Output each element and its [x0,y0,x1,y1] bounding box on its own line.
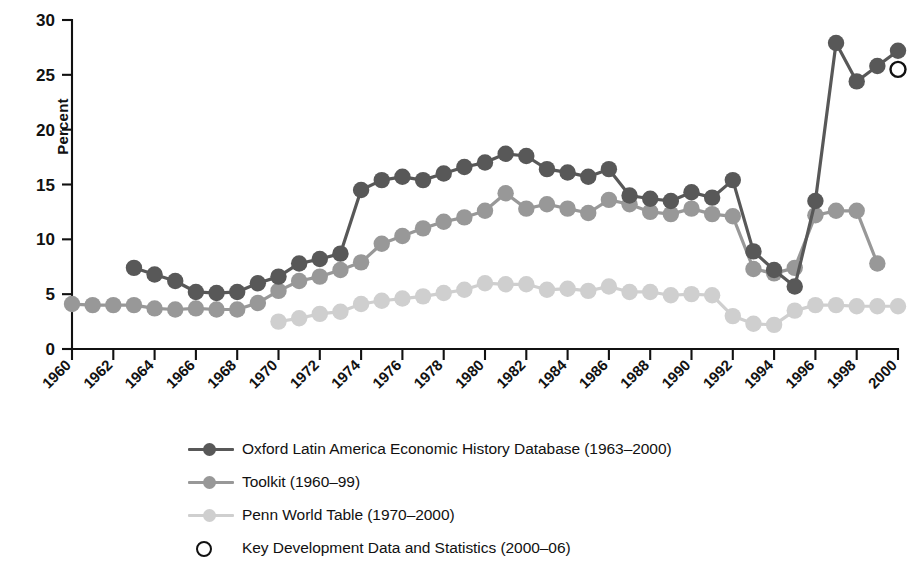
legend-item-oxford: Oxford Latin America Economic History Da… [186,432,886,465]
data-point [828,203,844,219]
data-point [126,297,142,313]
chart-figure: Percent 051015202530 1960196219641966196… [0,0,910,575]
x-tick-label: 1990 [658,356,694,392]
y-tick-labels: 051015202530 [36,11,55,359]
legend-label-oxford: Oxford Latin America Economic History Da… [242,440,672,458]
legend-label-toolkit: Toolkit (1960–99) [242,473,360,491]
data-point [601,192,617,208]
data-point [105,297,121,313]
data-point [518,276,534,292]
y-tick-label: 30 [36,11,55,30]
data-point [84,297,100,313]
data-point [497,276,513,292]
series-1 [64,185,886,318]
data-point [642,284,658,300]
data-point [436,165,452,181]
data-point [477,203,493,219]
data-point [580,283,596,299]
data-point [828,35,844,51]
data-point [580,169,596,185]
data-point [559,200,575,216]
data-point [849,73,865,89]
plot-area: 051015202530 196019621964196619681970197… [0,0,910,430]
data-point [208,285,224,301]
data-point [332,245,348,261]
data-point [725,308,741,324]
data-point [146,266,162,282]
data-point [64,296,80,312]
x-tick-label: 1974 [328,356,364,392]
y-tick-label: 15 [36,176,55,195]
data-point [787,302,803,318]
legend-marker-toolkit [186,472,242,492]
data-point [353,182,369,198]
data-point [167,301,183,317]
data-point [436,285,452,301]
data-point [849,298,865,314]
data-point [415,288,431,304]
data-point [663,193,679,209]
x-tick-label: 1994 [741,356,777,392]
x-tick-label: 1966 [162,356,198,392]
data-point [456,209,472,225]
data-point [745,316,761,332]
x-tick-label: 1992 [699,356,735,392]
legend-label-key-development-data: Key Development Data and Statistics (200… [242,539,571,557]
data-point [683,184,699,200]
data-point [146,300,162,316]
data-point [890,43,906,59]
data-point [188,284,204,300]
data-point [436,214,452,230]
x-tick-label: 1986 [575,356,611,392]
data-point [869,58,885,74]
data-point [725,172,741,188]
legend-item-key-development-data: Key Development Data and Statistics (200… [186,531,886,564]
x-tick-label: 1978 [410,356,446,392]
data-point [869,255,885,271]
data-point [270,283,286,299]
data-point [683,200,699,216]
data-point [456,159,472,175]
data-point [890,298,906,314]
x-axis-ticks [72,349,898,360]
data-point [312,268,328,284]
y-tick-label: 0 [46,340,55,359]
data-point [208,301,224,317]
data-point [394,228,410,244]
series-layer [64,35,906,333]
x-tick-label: 1972 [286,356,322,392]
y-tick-label: 20 [36,121,55,140]
y-tick-label: 10 [36,230,55,249]
series-line [134,43,898,293]
x-tick-labels: 1960196219641966196819701972197419761978… [39,356,901,392]
data-point [497,146,513,162]
data-point [374,236,390,252]
data-point [167,273,183,289]
data-point [704,206,720,222]
x-tick-label: 1964 [121,356,157,392]
legend-marker-oxford [186,439,242,459]
data-point [497,185,513,201]
data-point [374,172,390,188]
data-point [725,208,741,224]
data-point [539,282,555,298]
data-point [518,148,534,164]
x-tick-label: 1998 [823,356,859,392]
data-point [642,191,658,207]
y-tick-label: 5 [46,285,55,304]
data-point [539,196,555,212]
data-point [394,290,410,306]
data-point [621,187,637,203]
x-tick-label: 1962 [80,356,116,392]
data-point [456,282,472,298]
x-tick-label: 1970 [245,356,281,392]
data-point [869,298,885,314]
data-point [704,189,720,205]
data-point [663,287,679,303]
data-point [580,205,596,221]
data-point [270,313,286,329]
data-point [394,169,410,185]
data-point [188,300,204,316]
data-point [849,203,865,219]
data-point [745,243,761,259]
